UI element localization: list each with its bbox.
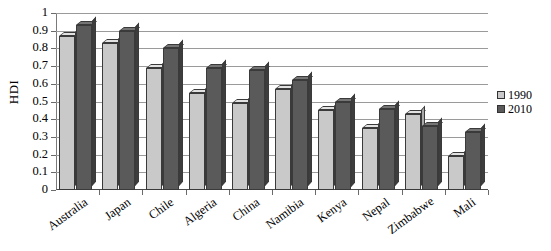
y-axis-tick-mark [51, 102, 56, 103]
x-axis-tick-mark [315, 190, 316, 195]
x-axis-tick-mark [142, 190, 143, 195]
y-axis-tick-label: 0.6 [16, 77, 48, 90]
y-axis-tick-mark [51, 137, 56, 138]
bar-2010-nepal [379, 109, 395, 190]
y-axis-tick-label: 0 [16, 183, 48, 196]
bar-2010-japan [119, 31, 135, 190]
x-axis-tick-mark [272, 190, 273, 195]
bar-2010-china [249, 70, 265, 190]
y-axis-tick-mark [51, 155, 56, 156]
y-axis-tick-mark [51, 190, 56, 191]
y-axis-tick-mark [51, 66, 56, 67]
x-axis-tick-mark [358, 190, 359, 195]
y-axis-tick-mark [51, 13, 56, 14]
x-axis-label-china: China [212, 195, 263, 238]
bar-1990-zimbabwe [405, 114, 421, 190]
x-axis-label-chile: Chile [126, 195, 177, 238]
legend-swatch-1990 [497, 91, 505, 99]
legend-label-1990: 1990 [508, 89, 532, 101]
x-axis-label-japan: Japan [83, 195, 134, 238]
x-axis-tick-mark [445, 190, 446, 195]
bar-1990-algeria [189, 93, 205, 190]
bar-1990-chile [146, 68, 162, 190]
y-axis-tick-label: 0.4 [16, 112, 48, 125]
y-axis-tick-label: 0.1 [16, 165, 48, 178]
x-axis-label-mali: Mali [428, 195, 479, 238]
hdi-bar-chart: HDI 10.90.80.70.60.50.40.30.20.10 Austra… [0, 0, 551, 251]
legend-item-2010[interactable]: 2010 [497, 102, 532, 116]
bar-2010-kenya [335, 102, 351, 191]
bar-1990-mali [448, 156, 464, 190]
y-axis-tick-label: 1 [16, 6, 48, 19]
legend-item-1990[interactable]: 1990 [497, 88, 532, 102]
x-axis-tick-mark [488, 190, 489, 195]
x-axis-label-australia: Australia [40, 195, 91, 238]
y-axis-tick-label: 0.8 [16, 41, 48, 54]
y-axis-tick-label: 0.3 [16, 130, 48, 143]
bar-1990-japan [102, 43, 118, 190]
y-axis-tick-mark [51, 48, 56, 49]
bar-2010-chile [163, 48, 179, 190]
bar-2010-zimbabwe [422, 126, 438, 190]
y-axis-tick-mark [51, 31, 56, 32]
y-axis-tick-mark [51, 172, 56, 173]
bar-1990-kenya [318, 110, 334, 190]
y-axis-tick-label: 0.7 [16, 59, 48, 72]
x-axis-tick-mark [99, 190, 100, 195]
y-axis-tick-mark [51, 84, 56, 85]
y-axis-tick-mark [51, 119, 56, 120]
y-axis-tick-label: 0.9 [16, 24, 48, 37]
legend-label-2010: 2010 [508, 103, 532, 115]
x-axis-label-nepal: Nepal [342, 195, 393, 238]
bar-2010-namibia [292, 80, 308, 190]
gridline [56, 13, 488, 14]
y-axis-tick-label: 0.5 [16, 95, 48, 108]
x-axis-tick-mark [186, 190, 187, 195]
x-axis-tick-mark [402, 190, 403, 195]
bar-2010-algeria [206, 68, 222, 190]
bar-2010-australia [76, 25, 92, 190]
chart-legend: 19902010 [497, 88, 532, 116]
x-axis-tick-mark [229, 190, 230, 195]
legend-swatch-2010 [497, 105, 505, 113]
bar-2010-mali [465, 132, 481, 190]
plot-area: 10.90.80.70.60.50.40.30.20.10 [56, 13, 488, 190]
bar-1990-australia [59, 36, 75, 190]
y-axis-tick-label: 0.2 [16, 148, 48, 161]
bar-1990-nepal [362, 128, 378, 190]
x-axis-label-namibia: Namibia [256, 195, 307, 238]
x-axis-label-kenya: Kenya [299, 195, 350, 238]
bar-1990-namibia [275, 89, 291, 190]
bar-1990-china [232, 103, 248, 190]
x-axis-label-zimbabwe: Zimbabwe [385, 195, 436, 238]
x-axis-label-algeria: Algeria [169, 195, 220, 238]
